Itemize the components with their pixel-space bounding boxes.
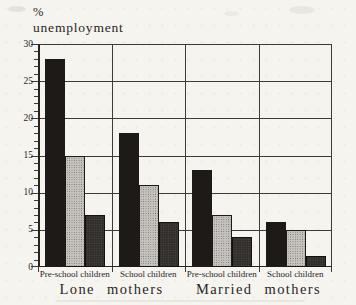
bar-dark-stipple [85, 215, 105, 267]
gridline-vertical [259, 44, 260, 267]
bar-dark-stipple [159, 222, 179, 267]
y-axis-tick-label: 10 [0, 187, 33, 198]
y-axis-minor-tick [34, 185, 38, 186]
scan-artifact [289, 6, 315, 14]
y-axis-minor-tick [34, 89, 38, 90]
bar-light-stipple [212, 215, 232, 267]
bar-solid-black [119, 133, 139, 267]
category-label: School children [120, 269, 177, 279]
scan-artifact [8, 6, 26, 12]
y-axis-title-percent: % [33, 4, 124, 20]
scan-artifact [55, 300, 305, 302]
y-axis-minor-tick [34, 126, 38, 127]
y-axis-minor-tick [34, 133, 38, 134]
y-axis-minor-tick [34, 222, 38, 223]
y-axis-tick-label: 20 [0, 113, 33, 124]
y-axis-title: % unemployment [33, 4, 124, 36]
y-axis-minor-tick [34, 252, 38, 253]
x-axis-tick [112, 267, 113, 272]
x-axis-tick [331, 267, 332, 272]
y-axis-line [38, 44, 40, 267]
mother-group-label: Lone mothers [60, 281, 164, 298]
y-axis-minor-tick [34, 74, 38, 75]
y-axis-minor-tick [34, 208, 38, 209]
bar-light-stipple [286, 230, 306, 267]
y-axis-tick-label: 0 [0, 262, 33, 273]
y-axis-minor-tick [34, 66, 38, 67]
bar-light-stipple [65, 156, 85, 268]
bar-solid-black [192, 170, 212, 267]
y-axis-minor-tick [34, 163, 38, 164]
scan-artifact [224, 11, 239, 16]
y-axis-minor-tick [34, 245, 38, 246]
y-axis-title-unemployment: unemployment [33, 20, 124, 36]
y-axis-minor-tick [34, 103, 38, 104]
y-axis-tick-label: 25 [0, 76, 33, 87]
y-axis-minor-tick [34, 215, 38, 216]
y-axis-minor-tick [34, 237, 38, 238]
bar-light-stipple [139, 185, 159, 267]
y-axis-tick-label: 15 [0, 150, 33, 161]
gridline-vertical [185, 44, 186, 267]
x-axis-tick [259, 267, 260, 272]
bar-dark-stipple [232, 237, 252, 267]
scanned-bar-chart-figure: % unemployment 051015202530 Pre-school c… [0, 0, 356, 305]
y-axis-minor-tick [34, 96, 38, 97]
y-axis-minor-tick [34, 178, 38, 179]
y-axis-minor-tick [34, 51, 38, 52]
y-axis-minor-tick [34, 148, 38, 149]
y-axis-tick-label: 5 [0, 224, 33, 235]
bar-solid-black [45, 59, 65, 267]
gridline-vertical [331, 44, 332, 267]
bar-dark-stipple [306, 256, 326, 267]
gridline-vertical [112, 44, 113, 267]
y-axis-tick-label: 30 [0, 39, 33, 50]
mother-group-label: Married mothers [196, 281, 321, 298]
plot-area [38, 44, 332, 267]
y-axis-minor-tick [34, 141, 38, 142]
y-axis-minor-tick [34, 111, 38, 112]
category-label: Pre-school children [40, 269, 110, 279]
y-axis-minor-tick [34, 200, 38, 201]
y-axis-minor-tick [34, 260, 38, 261]
y-axis-minor-tick [34, 170, 38, 171]
category-label: Pre-school children [187, 269, 257, 279]
bar-solid-black [266, 222, 286, 267]
category-label: School children [267, 269, 324, 279]
y-axis-minor-tick [34, 59, 38, 60]
